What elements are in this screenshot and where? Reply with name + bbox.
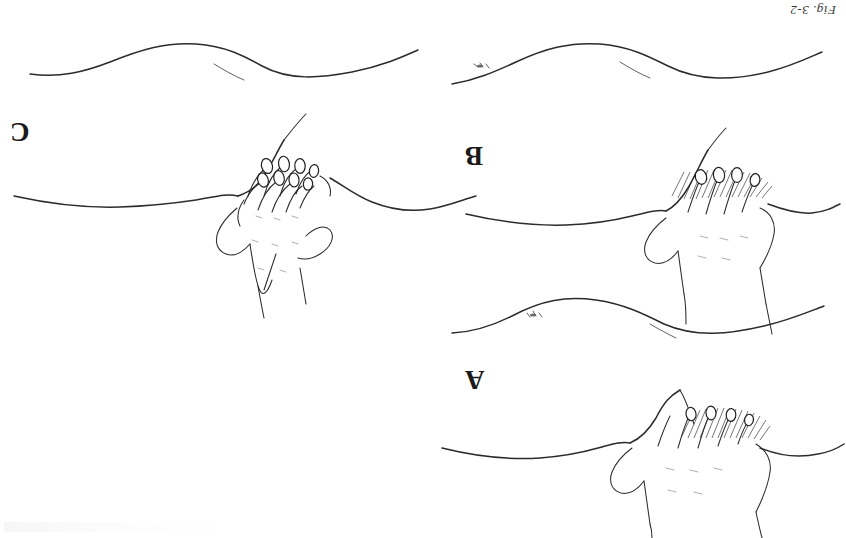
panel-b-fingers (688, 167, 761, 214)
panel-a-hatching (682, 408, 770, 440)
scan-artifact (4, 522, 234, 532)
figure-page: Fig. 3-2 C B A (0, 0, 846, 538)
panel-c-upper-hand (238, 155, 331, 272)
figure-caption: Fig. 3-2 (790, 2, 836, 18)
figure-artwork (0, 0, 846, 538)
contour-top-left (30, 44, 418, 80)
contour-top-right (452, 44, 822, 84)
panel-label-b: B (465, 142, 483, 169)
panel-c-artwork (14, 114, 476, 318)
panel-b-artwork (466, 128, 840, 334)
umbilicus-mark-middle-right (527, 311, 542, 317)
panel-label-c: C (10, 118, 30, 145)
panel-a-fingers (658, 406, 755, 448)
panel-a-artwork (442, 390, 844, 538)
panel-label-a: A (465, 366, 485, 393)
umbilicus-mark-top-right (474, 63, 489, 68)
contour-middle-right (452, 299, 824, 338)
panel-c-lower-hand-fingers (244, 170, 314, 212)
panel-b-hatching (672, 170, 772, 199)
